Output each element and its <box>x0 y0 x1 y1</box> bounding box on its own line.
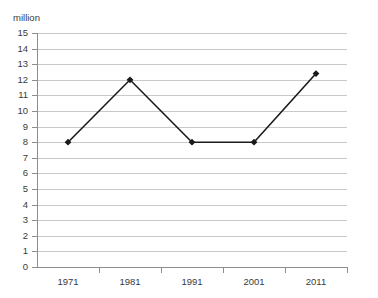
y-axis-tick-label: 2 <box>2 231 28 241</box>
y-axis-tick-label: 4 <box>2 200 28 210</box>
plot-area <box>37 33 347 267</box>
y-axis-tick-label: 12 <box>2 75 28 85</box>
x-axis-tick <box>285 268 286 273</box>
gridline <box>37 205 347 206</box>
x-axis-line <box>37 267 348 268</box>
y-axis-tick-label: 8 <box>2 137 28 147</box>
gridline <box>37 95 347 96</box>
gridline <box>37 127 347 128</box>
x-axis-tick-label: 1981 <box>119 277 140 287</box>
y-axis-tick-label: 6 <box>2 168 28 178</box>
y-axis-tick <box>32 33 37 34</box>
y-axis-line <box>37 33 38 268</box>
chart-title-cropped <box>0 0 378 7</box>
y-axis-tick <box>32 267 37 268</box>
y-axis-tick <box>32 95 37 96</box>
y-axis-tick-label: 3 <box>2 215 28 225</box>
y-axis-tick <box>32 173 37 174</box>
y-axis-tick <box>32 80 37 81</box>
gridline <box>37 80 347 81</box>
y-axis-tick <box>32 64 37 65</box>
gridline <box>37 251 347 252</box>
gridline <box>37 33 347 34</box>
y-axis-tick-label: 15 <box>2 28 28 38</box>
gridline <box>37 111 347 112</box>
y-axis-tick-label: 10 <box>2 106 28 116</box>
y-axis-tick <box>32 220 37 221</box>
gridline <box>37 189 347 190</box>
y-axis-tick-label: 13 <box>2 59 28 69</box>
chart-container: million 1514131211109876543210 197119811… <box>0 0 378 298</box>
x-axis-tick <box>99 268 100 273</box>
y-axis-tick <box>32 236 37 237</box>
x-axis-tick-label: 2011 <box>306 277 326 287</box>
gridline <box>37 142 347 143</box>
y-axis-tick <box>32 142 37 143</box>
y-axis-tick <box>32 189 37 190</box>
y-axis-tick <box>32 205 37 206</box>
x-axis-tick-label: 2001 <box>243 277 264 287</box>
y-axis-tick <box>32 49 37 50</box>
y-axis-unit-label: million <box>13 12 40 23</box>
x-axis-tick-label: 1971 <box>57 277 78 287</box>
y-axis-tick <box>32 111 37 112</box>
y-axis-tick <box>32 158 37 159</box>
y-axis-tick-label: 1 <box>2 246 28 256</box>
gridline <box>37 220 347 221</box>
y-axis-tick <box>32 251 37 252</box>
gridline <box>37 49 347 50</box>
x-axis-tick <box>223 268 224 273</box>
gridline <box>37 236 347 237</box>
y-axis-tick-label: 5 <box>2 184 28 194</box>
y-axis-tick-label: 11 <box>2 90 28 100</box>
y-axis-tick-label: 0 <box>2 262 28 272</box>
gridline <box>37 173 347 174</box>
y-axis-tick-label: 14 <box>2 44 28 54</box>
gridline <box>37 64 347 65</box>
x-axis-tick <box>161 268 162 273</box>
gridline <box>37 158 347 159</box>
y-axis-tick <box>32 127 37 128</box>
y-axis-tick-label: 7 <box>2 153 28 163</box>
y-axis-tick-label: 9 <box>2 122 28 132</box>
x-axis-tick-label: 1991 <box>181 277 202 287</box>
x-axis-tick <box>347 268 348 273</box>
